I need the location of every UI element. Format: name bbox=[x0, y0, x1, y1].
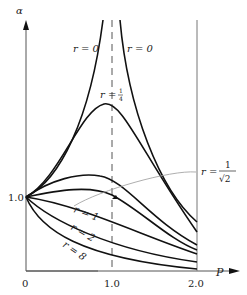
y-axis-label: α bbox=[16, 5, 23, 16]
svg-text:1: 1 bbox=[119, 87, 123, 94]
label-r-half: r = 1 4 bbox=[100, 87, 123, 102]
x-axis-arrow-icon bbox=[229, 268, 240, 274]
x-axis-label: P bbox=[215, 266, 224, 279]
x-tick-1: 1.0 bbox=[104, 278, 120, 289]
y-tick-1: 1.0 bbox=[8, 192, 24, 203]
svg-text:r =: r = bbox=[201, 166, 217, 177]
label-r0-right: r = 0 bbox=[127, 43, 154, 54]
label-r2: r = 2 bbox=[69, 221, 97, 243]
curve-r-sqrt2 bbox=[26, 175, 197, 245]
label-r-sqrt2: r = 1 √2 bbox=[201, 160, 236, 184]
svg-text:4: 4 bbox=[119, 95, 123, 102]
x-tick-0: 0 bbox=[22, 278, 28, 289]
label-r0-left: r = 0 bbox=[73, 43, 100, 54]
svg-text:√2: √2 bbox=[219, 174, 230, 184]
chart: α P 0 1.0 2.0 1.0 r = 0 r = 0 r = 1 4 r … bbox=[0, 0, 247, 295]
y-axis-arrow-icon bbox=[23, 20, 29, 30]
svg-text:r =: r = bbox=[100, 89, 116, 100]
svg-text:1: 1 bbox=[225, 160, 231, 170]
axes bbox=[23, 20, 240, 274]
label-r1: r = 1 bbox=[72, 204, 100, 223]
x-tick-2: 2.0 bbox=[188, 278, 204, 289]
